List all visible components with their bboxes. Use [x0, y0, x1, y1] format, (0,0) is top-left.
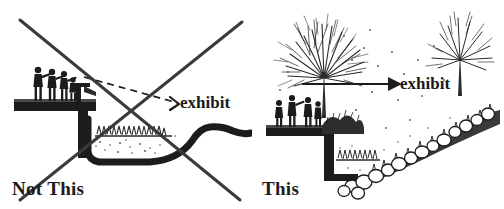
- visitor-figure: [288, 95, 305, 127]
- visitors-right: [275, 95, 322, 127]
- exhibit-arrowhead-left: [170, 97, 179, 110]
- shrub-mass: [322, 110, 364, 134]
- caption-not-this: Not This: [12, 178, 84, 200]
- dashed-sightline-left: [84, 77, 178, 103]
- exhibit-leader-right: [302, 77, 402, 91]
- exhibit-label-left: exhibit: [180, 93, 230, 113]
- exhibit-label-right: exhibit: [400, 74, 450, 94]
- grass-tuft-right: [336, 150, 380, 160]
- figure-canvas: exhibit exhibit Not This This: [0, 0, 504, 209]
- bank-vegetation-fringe: [372, 104, 492, 172]
- visitor-figure: [304, 97, 313, 127]
- visitor-figure: [314, 101, 322, 127]
- visitor-figure: [275, 100, 283, 127]
- large-deciduous-tree: [274, 14, 368, 118]
- caption-this: This: [262, 178, 299, 200]
- visitors-left: [33, 67, 76, 101]
